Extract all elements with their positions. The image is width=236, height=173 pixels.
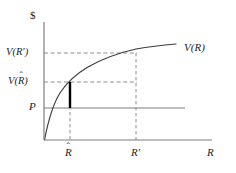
hat-accent-icon: ˆ xyxy=(19,71,22,81)
y-tick-v-r-hat-suffix: ) xyxy=(24,75,28,86)
x-tick-r-prime-body: R xyxy=(131,146,138,158)
x-axis-label: R xyxy=(207,147,214,158)
hat-accent-icon: ˆ xyxy=(67,142,70,152)
y-tick-v-r-hat-prefix: V( xyxy=(8,75,18,86)
x-tick-label-r-hat: Rˆ xyxy=(65,147,72,158)
value-function-diagram: $ V(R′) V(Rˆ) P Rˆ R′ R V(R) xyxy=(0,0,236,173)
curve-label-prefix: V( xyxy=(184,41,194,53)
x-tick-r-prime-prime: ′ xyxy=(138,146,140,158)
y-tick-v-r-prime-prefix: V( xyxy=(6,46,16,57)
y-tick-label-v-r-prime: V(R′) xyxy=(6,47,28,58)
y-axis-label: $ xyxy=(30,10,36,21)
plot-canvas xyxy=(0,0,236,173)
x-tick-label-r-prime: R′ xyxy=(131,147,140,158)
curve-label-suffix: ) xyxy=(201,41,205,53)
value-curve xyxy=(45,44,177,140)
curve-label-v-r: V(R) xyxy=(184,42,205,53)
y-tick-v-r-prime-suffix: ) xyxy=(25,46,29,57)
y-tick-v-r-hat-glyph: Rˆ xyxy=(18,76,24,87)
x-tick-r-hat-glyph: Rˆ xyxy=(65,147,72,158)
y-tick-label-p: P xyxy=(29,101,36,112)
y-tick-label-v-r-hat: V(Rˆ) xyxy=(8,76,28,87)
